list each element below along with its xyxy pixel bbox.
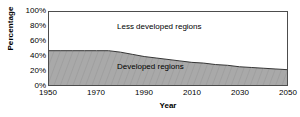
x-axis-tick-label: 2050 [268, 88, 300, 97]
x-axis-tick-label: 1990 [124, 88, 164, 97]
x-axis-tick-labels: 195019701990201020302050 [0, 88, 300, 100]
x-axis-title: Year [48, 101, 288, 110]
x-axis-tick-label: 2030 [220, 88, 260, 97]
y-axis-tick-label: 20% [20, 67, 46, 75]
y-axis-tick-label: 40% [20, 52, 46, 60]
less-developed-regions-label: Less developed regions [117, 22, 202, 31]
y-axis-tick-label: 60% [20, 37, 46, 45]
y-axis-tick-label: 80% [20, 22, 46, 30]
chart-container: Percentage 100%80%60%40%20%0% Less devel… [0, 0, 300, 117]
y-axis-title: Percentage [6, 0, 15, 61]
developed-regions-label: Developed regions [117, 62, 184, 71]
x-axis-tick-label: 1970 [76, 88, 116, 97]
x-axis-tick-label: 1950 [28, 88, 68, 97]
y-axis-tick-label: 100% [20, 7, 46, 15]
plot-area: Less developed regions Developed regions [48, 11, 288, 86]
x-axis-tick-label: 2010 [172, 88, 212, 97]
